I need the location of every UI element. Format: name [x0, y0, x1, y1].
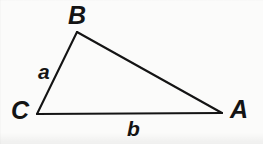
vertex-label-a: A [230, 97, 248, 122]
side-label-a: a [38, 61, 50, 82]
side-c-line [77, 32, 222, 113]
side-label-b: b [127, 118, 140, 139]
figure-canvas: B C A a b [0, 0, 263, 144]
side-b-line [37, 113, 222, 114]
vertex-label-b: B [68, 3, 86, 28]
vertex-label-c: C [11, 98, 29, 123]
